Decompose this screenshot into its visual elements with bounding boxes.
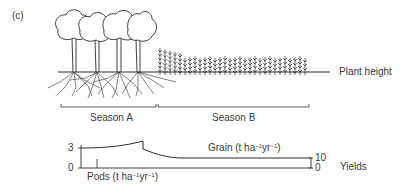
trees-icon — [56, 10, 157, 72]
left-tick-3-label: 3 — [68, 143, 74, 153]
roots-icon — [48, 72, 176, 98]
yields-label: Yields — [340, 162, 367, 172]
panel-label: (c) — [12, 11, 24, 21]
right-y-axis — [309, 158, 313, 168]
pods-label: Pods (t ha−1yr−1) — [87, 172, 158, 182]
pods-yield-line — [81, 141, 143, 149]
left-tick-0-label: 0 — [68, 163, 74, 173]
season-b-label: Season B — [212, 113, 255, 123]
right-tick-0-label: 0 — [315, 163, 321, 173]
crops-icon — [158, 48, 307, 75]
season-a-bracket — [61, 104, 156, 107]
plant-height-label: Plant height — [339, 67, 392, 77]
season-a-label: Season A — [90, 113, 133, 123]
season-b-bracket — [158, 104, 309, 107]
grain-label: Grain (t ha−1yr−1) — [208, 143, 281, 153]
